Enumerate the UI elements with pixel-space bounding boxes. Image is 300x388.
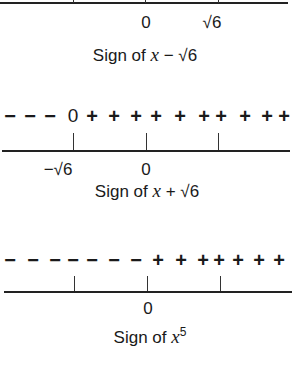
tick-mark xyxy=(146,133,147,150)
tick-mark xyxy=(147,276,148,291)
axis-label-sqrt6: √6 xyxy=(203,14,222,32)
axis-label-zero: 0 xyxy=(141,161,150,179)
axis-label-neg-sqrt6: −√6 xyxy=(44,161,73,179)
tick-mark xyxy=(220,276,221,291)
caption-variable: x xyxy=(171,326,179,347)
caption-expression: + √6 xyxy=(161,182,199,201)
plus-sign: + xyxy=(86,105,98,127)
tick-mark xyxy=(218,133,219,150)
zero-marker: 0 xyxy=(68,105,79,127)
caption-exponent: 5 xyxy=(180,325,187,339)
panel-caption: Sign of x5 xyxy=(114,322,187,348)
plus-sign: + xyxy=(273,249,285,271)
panel-caption: Sign of x − √6 xyxy=(93,45,197,66)
minus-sign: − xyxy=(27,249,39,271)
plus-sign: + xyxy=(232,249,244,271)
plus-sign: + xyxy=(253,249,265,271)
tick-mark xyxy=(73,133,74,150)
plus-sign: + xyxy=(197,249,209,271)
minus-sign: − xyxy=(4,105,16,127)
minus-sign: − xyxy=(86,249,98,271)
plus-sign: + xyxy=(150,105,162,127)
panel-caption: Sign of x + √6 xyxy=(95,181,199,202)
plus-sign: + xyxy=(108,105,120,127)
tick-mark xyxy=(74,276,75,291)
tick-mark xyxy=(218,0,219,3)
minus-sign: − xyxy=(24,105,36,127)
plus-sign: + xyxy=(152,249,164,271)
plus-sign: + xyxy=(174,105,186,127)
caption-variable: x xyxy=(153,180,161,201)
minus-sign: − xyxy=(49,249,61,271)
minus-sign: − xyxy=(108,249,120,271)
sign-row: − − − 0 + + + + + + + + + + xyxy=(0,105,300,127)
number-line xyxy=(2,150,290,152)
tick-mark xyxy=(145,0,146,3)
tick-mark xyxy=(73,0,74,3)
plus-sign: + xyxy=(261,105,273,127)
number-line xyxy=(0,2,288,4)
caption-expression: − √6 xyxy=(159,46,197,65)
plus-sign: + xyxy=(239,105,251,127)
axis-label-zero: 0 xyxy=(141,14,150,32)
sign-row: − − − − − − − + + + + + + + xyxy=(0,249,300,271)
plus-sign: + xyxy=(175,249,187,271)
caption-variable: x xyxy=(151,44,159,65)
minus-sign: − xyxy=(44,105,56,127)
caption-text: Sign of xyxy=(114,328,172,347)
caption-text: Sign of xyxy=(95,182,153,201)
minus-sign: − xyxy=(130,249,142,271)
number-line xyxy=(4,291,292,293)
plus-sign: + xyxy=(198,105,210,127)
minus-sign: − xyxy=(4,249,16,271)
plus-sign: + xyxy=(215,105,227,127)
minus-sign: − xyxy=(67,249,79,271)
axis-label-zero: 0 xyxy=(143,300,152,318)
plus-sign: + xyxy=(278,105,290,127)
plus-sign: + xyxy=(213,249,225,271)
caption-text: Sign of xyxy=(93,46,151,65)
plus-sign: + xyxy=(130,105,142,127)
